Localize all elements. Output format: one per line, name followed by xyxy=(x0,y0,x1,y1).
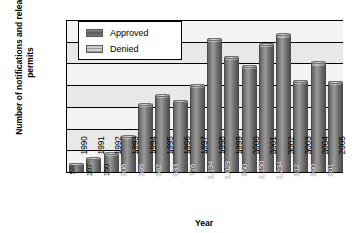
legend-label-approved: Approved xyxy=(110,28,149,38)
denied-swatch-icon xyxy=(86,45,103,53)
bar-top-cap xyxy=(311,61,326,64)
chart-legend: Approved Denied xyxy=(78,21,182,60)
bar-top-cap xyxy=(155,94,170,97)
x-tick-label: 1999 xyxy=(234,136,244,176)
x-axis-title-wrap: Year xyxy=(66,212,342,230)
legend-label-denied: Denied xyxy=(110,44,139,54)
bar-top-cap xyxy=(207,38,222,41)
x-tick-label: 2005 xyxy=(337,136,347,176)
x-tick-label: 1991 xyxy=(96,136,106,176)
x-tick-label: 1998 xyxy=(217,136,227,176)
x-tick-label: 1990 xyxy=(79,136,89,176)
x-axis-title: Year xyxy=(195,218,213,228)
bar-top-cap xyxy=(293,80,308,83)
bar-value-label: 58 xyxy=(68,166,77,174)
x-tick-label: 1996 xyxy=(182,136,192,176)
bar-top-cap xyxy=(242,65,257,68)
x-tick-label: 2000 xyxy=(251,136,261,176)
bar-chart: Number of notifications and release perm… xyxy=(0,0,357,233)
bar-top-cap xyxy=(328,81,343,84)
x-tick-label: 1993 xyxy=(130,136,140,176)
x-tick-label: 2004 xyxy=(320,136,330,176)
x-tick-label: 1997 xyxy=(199,136,209,176)
legend-item-denied: Denied xyxy=(86,41,181,57)
bar-top-cap xyxy=(173,100,188,103)
x-tick-label: 1994 xyxy=(148,136,158,176)
x-tick-label: 1992 xyxy=(113,136,123,176)
y-axis-title: Number of notifications and release perm… xyxy=(14,0,35,136)
bar-top-cap xyxy=(138,103,153,106)
bar-top-cap xyxy=(224,56,239,59)
bar-top-cap xyxy=(259,43,274,46)
legend-item-approved: Approved xyxy=(86,25,181,41)
x-tick-label: 1995 xyxy=(165,136,175,176)
x-tick-label: 2003 xyxy=(303,136,313,176)
x-tick-label: 2002 xyxy=(286,136,296,176)
x-tick-label: 2001 xyxy=(268,136,278,176)
bar-top-cap xyxy=(190,84,205,87)
approved-swatch-icon xyxy=(86,29,103,37)
